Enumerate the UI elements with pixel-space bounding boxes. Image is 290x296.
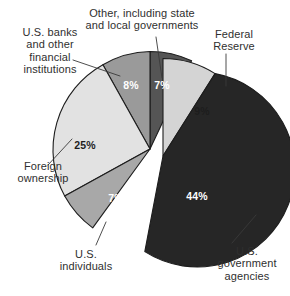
- slice-value-us-banks-financial-institutions: 8%: [114, 79, 148, 91]
- pie-chart-figure: Other, including state and local governm…: [0, 0, 290, 296]
- slice-value-other-state-local-governments: 7%: [145, 79, 179, 91]
- slice-label-other-state-local-governments: Other, including state and local governm…: [78, 7, 206, 32]
- slice-label-us-banks-financial-institutions: U.S. banks and other financial instituti…: [4, 26, 96, 76]
- slice-label-foreign-ownership: Foreign ownership: [2, 160, 84, 185]
- slice-value-us-government-agencies: 44%: [180, 190, 214, 202]
- leader-line-us-individuals: [96, 222, 106, 245]
- slice-value-us-individuals: 7%: [99, 192, 133, 204]
- slice-label-us-government-agencies: U.S. government agencies: [206, 245, 288, 282]
- slice-value-federal-reserve: 9%: [185, 105, 219, 117]
- slice-label-federal-reserve: Federal Reserve: [196, 28, 272, 53]
- slice-value-foreign-ownership: 25%: [68, 139, 102, 151]
- slice-label-us-individuals: U.S. individuals: [48, 248, 124, 273]
